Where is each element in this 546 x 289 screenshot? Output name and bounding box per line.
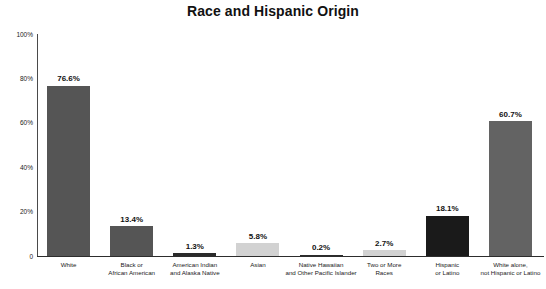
x-axis-category-label: White alone,not Hispanic or Latino bbox=[472, 261, 546, 278]
x-axis-category-label-line: not Hispanic or Latino bbox=[472, 269, 546, 277]
x-axis-category-label-line: White alone, bbox=[472, 261, 546, 269]
x-axis-category-label-line: and Alaska Native bbox=[156, 269, 233, 277]
bar-chart: Race and Hispanic Origin 100%80%60%40%20… bbox=[0, 0, 546, 289]
x-axis-category-labels: WhiteBlack orAfrican AmericanAmerican In… bbox=[0, 0, 546, 289]
